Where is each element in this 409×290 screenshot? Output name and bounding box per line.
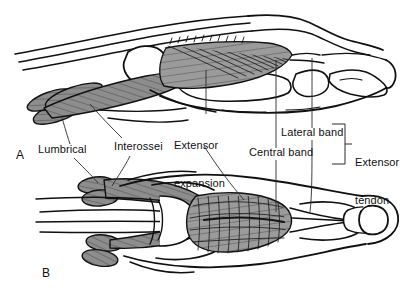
label-interossei: Interossei (114, 140, 163, 153)
label-extensor-expansion-line2: expansion (174, 177, 225, 190)
label-central-band: Central band (249, 146, 313, 159)
label-lumbrical: Lumbrical (38, 143, 87, 156)
interossei-muscle-b (81, 233, 123, 269)
label-lateral-band: Lateral band (281, 126, 343, 139)
middle-phalanx-a (293, 70, 329, 96)
label-extensor-tendon: Extensor tendon (355, 131, 399, 231)
central-band-a (292, 54, 320, 56)
label-extensor-tendon-line1: Extensor (355, 156, 399, 169)
label-extensor-expansion-line1: Extensor (174, 139, 225, 152)
anatomy-figure: Lumbrical Interossei Extensor expansion … (0, 0, 409, 290)
panel-a-lateral-view (15, 15, 396, 129)
leader-lumbrical (62, 118, 70, 144)
label-extensor-tendon-line2: tendon (355, 194, 399, 207)
panel-label-a: A (16, 148, 24, 162)
label-extensor-expansion: Extensor expansion (174, 114, 225, 214)
panel-label-b: B (42, 266, 50, 280)
lateral-band-a (290, 60, 324, 63)
fingertip-contour-a (386, 60, 396, 88)
